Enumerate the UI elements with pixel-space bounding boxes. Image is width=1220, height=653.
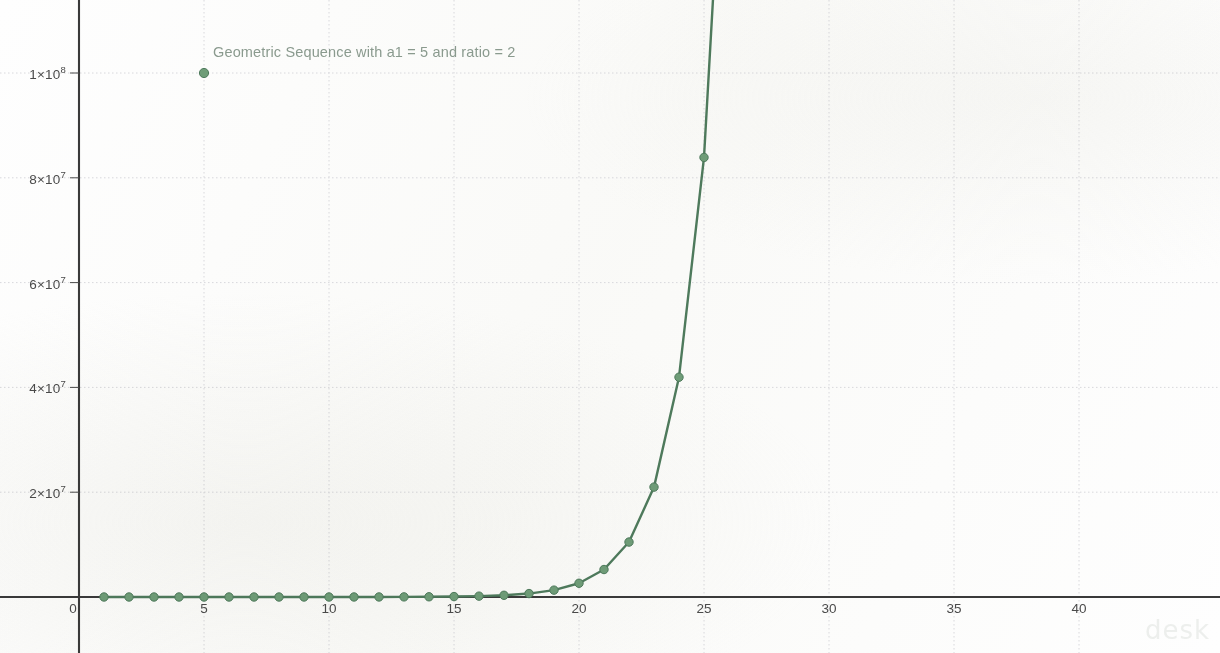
- chart-title: Geometric Sequence with a1 = 5 and ratio…: [213, 44, 515, 60]
- data-point-marker: [625, 538, 633, 546]
- x-axis-tick-label: 5: [184, 601, 224, 616]
- data-point-marker: [400, 593, 408, 601]
- x-axis-tick-label: 20: [559, 601, 599, 616]
- series-markers: [100, 153, 708, 601]
- data-point-marker: [100, 593, 108, 601]
- data-point-marker: [350, 593, 358, 601]
- data-point-marker: [125, 593, 133, 601]
- x-axis-tick-label: 35: [934, 601, 974, 616]
- x-axis-tick-label: 0: [53, 601, 93, 616]
- data-point-marker: [300, 593, 308, 601]
- data-point-marker: [575, 579, 583, 587]
- y-axis-tick-label: 8×107: [0, 169, 66, 187]
- axis-lines: [0, 0, 1220, 653]
- vertical-gridlines: [204, 0, 1079, 653]
- data-point-marker: [600, 565, 608, 573]
- y-axis-tick-label: 1×108: [0, 64, 66, 82]
- data-point-marker: [475, 592, 483, 600]
- data-point-marker: [700, 153, 708, 161]
- data-point-marker: [525, 589, 533, 597]
- series-line: [104, 0, 729, 597]
- data-point-marker: [675, 373, 683, 381]
- data-point-marker: [250, 593, 258, 601]
- data-point-marker: [425, 593, 433, 601]
- data-point-marker: [500, 591, 508, 599]
- x-axis-tick-label: 30: [809, 601, 849, 616]
- data-point-marker: [325, 593, 333, 601]
- y-axis-tick-label: 6×107: [0, 274, 66, 292]
- data-point-marker: [550, 586, 558, 594]
- y-axis-ticks: [70, 73, 79, 492]
- data-point-marker: [150, 593, 158, 601]
- data-point-marker: [450, 592, 458, 600]
- plot-area: [0, 0, 1220, 653]
- x-axis-tick-label: 10: [309, 601, 349, 616]
- legend-marker-dot: [199, 68, 208, 77]
- chart-canvas: Geometric Sequence with a1 = 5 and ratio…: [0, 0, 1220, 653]
- watermark: desk: [1145, 615, 1210, 645]
- data-point-marker: [200, 593, 208, 601]
- data-point-marker: [225, 593, 233, 601]
- data-point-marker: [375, 593, 383, 601]
- x-axis-tick-label: 15: [434, 601, 474, 616]
- data-point-marker: [650, 483, 658, 491]
- x-axis-tick-label: 40: [1059, 601, 1099, 616]
- horizontal-gridlines: [0, 73, 1220, 492]
- legend-marker: [199, 68, 208, 77]
- y-axis-tick-label: 4×107: [0, 378, 66, 396]
- y-axis-tick-label: 2×107: [0, 483, 66, 501]
- data-point-marker: [275, 593, 283, 601]
- x-axis-tick-label: 25: [684, 601, 724, 616]
- data-point-marker: [175, 593, 183, 601]
